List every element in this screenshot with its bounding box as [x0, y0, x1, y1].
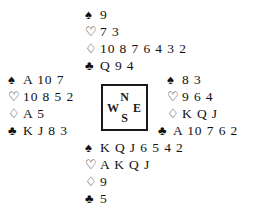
- east-clubs-cards: A 10 7 6 2: [171, 122, 238, 139]
- hand-east: ♠ 8 3 ♡ 9 6 4 ♢ K Q J ♣ A 10 7 6 2: [167, 71, 238, 139]
- spade-icon: ♠: [85, 139, 98, 156]
- south-spades-cards: K Q J 6 5 4 2: [98, 139, 184, 156]
- south-hearts-row: ♡ A K Q J: [85, 156, 184, 173]
- hand-south: ♠ K Q J 6 5 4 2 ♡ A K Q J ♢ 9 ♣ 5: [85, 139, 184, 207]
- south-diamonds-row: ♢ 9: [85, 173, 184, 190]
- north-spades-cards: 9: [98, 6, 108, 23]
- north-hearts-cards: 7 3: [98, 23, 120, 40]
- north-diamonds-cards: 10 8 7 6 4 3 2: [98, 40, 187, 57]
- hand-west: ♠ A 10 7 ♡ 10 8 5 2 ♢ A 5 ♣ K J 8 3: [8, 71, 74, 139]
- spade-icon: ♠: [85, 6, 98, 23]
- west-clubs-cards: K J 8 3: [21, 122, 68, 139]
- north-diamonds-row: ♢ 10 8 7 6 4 3 2: [85, 40, 187, 57]
- east-hearts-cards: 9 6 4: [180, 88, 214, 105]
- spade-icon: ♠: [8, 71, 21, 88]
- east-diamonds-row: ♢ K Q J: [167, 105, 238, 122]
- south-hearts-cards: A K Q J: [98, 156, 150, 173]
- south-diamonds-cards: 9: [98, 173, 108, 190]
- diamond-icon: ♢: [85, 173, 98, 190]
- west-diamonds-cards: A 5: [21, 105, 45, 122]
- east-spades-row: ♠ 8 3: [167, 71, 238, 88]
- west-hearts-cards: 10 8 5 2: [21, 88, 74, 105]
- heart-icon: ♡: [85, 23, 98, 40]
- east-clubs-row: ♣ A 10 7 6 2: [158, 122, 238, 139]
- heart-icon: ♡: [167, 88, 180, 105]
- club-icon: ♣: [8, 122, 21, 139]
- west-hearts-row: ♡ 10 8 5 2: [8, 88, 74, 105]
- diamond-icon: ♢: [85, 40, 98, 57]
- north-clubs-cards: Q 9 4: [98, 57, 135, 74]
- spade-icon: ♠: [167, 71, 180, 88]
- bridge-deal-diagram: ♠ 9 ♡ 7 3 ♢ 10 8 7 6 4 3 2 ♣ Q 9 4 ♠ A 1…: [0, 0, 259, 214]
- east-diamonds-cards: K Q J: [180, 105, 218, 122]
- hand-north: ♠ 9 ♡ 7 3 ♢ 10 8 7 6 4 3 2 ♣ Q 9 4: [85, 6, 187, 74]
- club-icon: ♣: [158, 122, 171, 139]
- compass-south-label: S: [103, 112, 146, 124]
- south-spades-row: ♠ K Q J 6 5 4 2: [85, 139, 184, 156]
- heart-icon: ♡: [8, 88, 21, 105]
- club-icon: ♣: [85, 190, 98, 207]
- west-spades-row: ♠ A 10 7: [8, 71, 74, 88]
- club-icon: ♣: [85, 57, 98, 74]
- diamond-icon: ♢: [8, 105, 21, 122]
- west-spades-cards: A 10 7: [21, 71, 64, 88]
- west-clubs-row: ♣ K J 8 3: [8, 122, 74, 139]
- diamond-icon: ♢: [167, 105, 180, 122]
- east-hearts-row: ♡ 9 6 4: [167, 88, 238, 105]
- heart-icon: ♡: [85, 156, 98, 173]
- east-spades-cards: 8 3: [180, 71, 202, 88]
- south-clubs-row: ♣ 5: [85, 190, 184, 207]
- south-clubs-cards: 5: [98, 190, 108, 207]
- west-diamonds-row: ♢ A 5: [8, 105, 74, 122]
- north-hearts-row: ♡ 7 3: [85, 23, 187, 40]
- compass-box: N W E S: [101, 84, 148, 131]
- north-spades-row: ♠ 9: [85, 6, 187, 23]
